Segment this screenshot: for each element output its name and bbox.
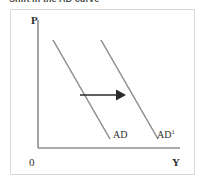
ad-shifted-label-superscript: 1 xyxy=(171,128,174,135)
x-axis-label: Y xyxy=(172,156,180,168)
figure-container: Shift in the AD curve P Y 0 AD AD1 xyxy=(0,0,207,185)
ad-shifted-label-text: AD xyxy=(157,129,171,140)
shift-arrow-head xyxy=(116,90,126,101)
ad-initial-label: AD xyxy=(113,129,127,140)
origin-label: 0 xyxy=(29,156,35,168)
y-axis-label: P xyxy=(31,14,38,26)
ad-shifted-curve xyxy=(101,40,158,139)
ad-shifted-label: AD1 xyxy=(157,129,175,140)
ad-initial-curve xyxy=(53,40,110,139)
